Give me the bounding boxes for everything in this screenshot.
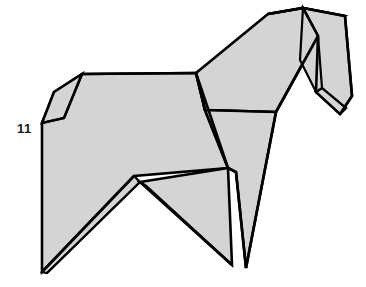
crease-back-ridge — [82, 73, 196, 74]
step-number-label: 11 — [17, 122, 32, 135]
origami-horse-figure — [0, 0, 366, 287]
origami-illustration: 11 — [0, 0, 366, 287]
